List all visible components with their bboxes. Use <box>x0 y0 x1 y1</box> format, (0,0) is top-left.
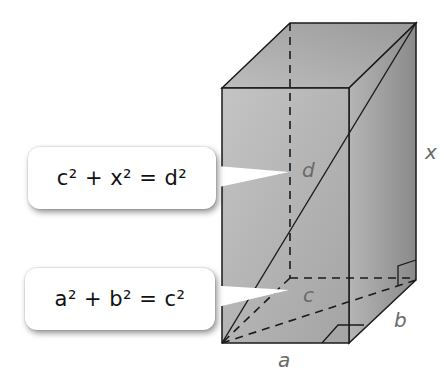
label-b: b <box>394 308 407 332</box>
label-c: c <box>303 283 314 307</box>
equation-d: c² + x² = d² <box>57 166 187 190</box>
label-a: a <box>278 348 290 372</box>
equation-c: a² + b² = c² <box>55 287 186 311</box>
label-x: x <box>425 140 437 164</box>
prism-diagram: c² + x² = d² a² + b² = c² d c x a b <box>0 0 444 377</box>
callout-d-equation: c² + x² = d² <box>28 147 216 209</box>
label-d: d <box>302 158 315 182</box>
callout-c-equation: a² + b² = c² <box>25 268 215 330</box>
